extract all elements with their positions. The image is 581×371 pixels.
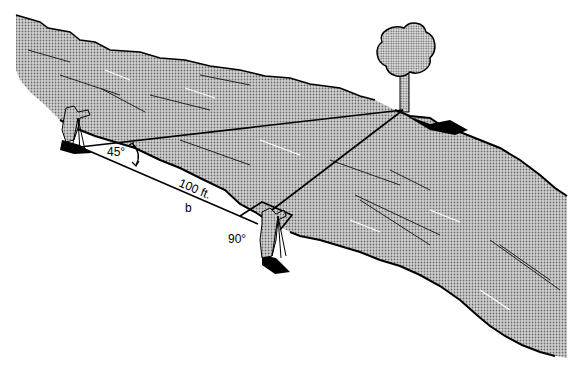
angle-label-45: 45°	[107, 145, 125, 159]
river-survey-diagram: 45° 100 ft. b 90°	[0, 0, 581, 371]
river	[16, 15, 567, 358]
side-label-b: b	[185, 201, 192, 215]
angle-label-90: 90°	[228, 232, 246, 246]
